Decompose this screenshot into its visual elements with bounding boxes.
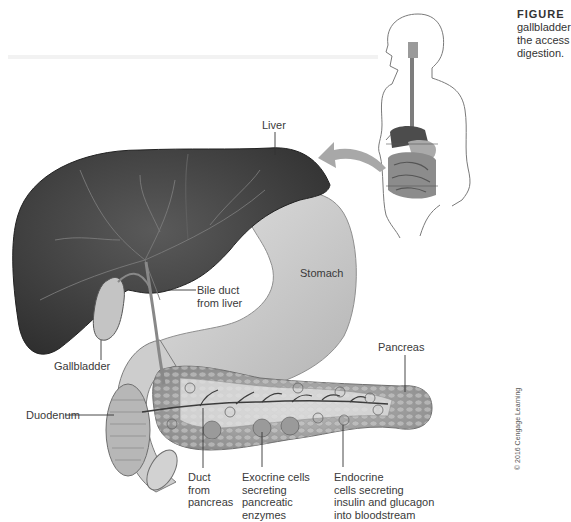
figure-caption: FIGURE gallbladder the access digestion. [517, 8, 571, 60]
caption-line-2: the access [517, 34, 571, 47]
label-liver: Liver [262, 119, 286, 132]
label-bile-duct: Bile duct from liver [197, 284, 242, 309]
pointing-arrow-icon [318, 142, 386, 172]
label-stomach: Stomach [300, 267, 343, 280]
label-duct-from-pancreas: Duct from pancreas [188, 471, 233, 509]
label-duodenum: Duodenum [26, 409, 80, 422]
label-gallbladder: Gallbladder [54, 360, 110, 373]
body-organs-thumbnail [386, 42, 438, 199]
label-endocrine-cells: Endocrine cells secreting insulin and gl… [334, 471, 434, 521]
figure-label: FIGURE [517, 8, 571, 21]
label-pancreas: Pancreas [378, 341, 424, 354]
label-exocrine-cells: Exocrine cells secreting pancreatic enzy… [242, 471, 310, 521]
caption-line-3: digestion. [517, 47, 571, 60]
caption-line-1: gallbladder [517, 21, 571, 34]
duodenum-section [106, 384, 150, 476]
body-outline-figure [379, 14, 470, 238]
copyright-notice: © 2016 Cengage Learning [514, 388, 521, 470]
